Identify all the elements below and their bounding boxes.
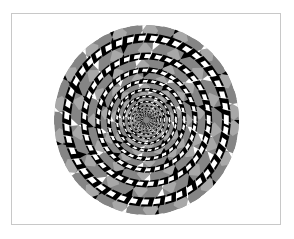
spiral-disc	[48, 19, 245, 221]
fraser-spiral-illusion	[0, 0, 294, 239]
